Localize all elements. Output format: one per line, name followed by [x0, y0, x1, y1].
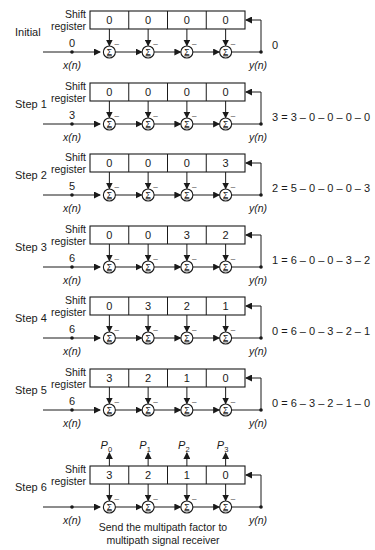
feedback-arrow: [246, 306, 261, 338]
minus-sign: –: [153, 325, 158, 334]
register-cell-value: 0: [184, 86, 190, 98]
minus-sign: –: [153, 494, 158, 503]
sigma-icon: Σ: [145, 502, 150, 512]
register-cell-value: 1: [223, 300, 229, 312]
register-cell-value: 0: [106, 86, 112, 98]
sigma-icon: Σ: [184, 262, 189, 272]
step-label: Step 1: [15, 98, 47, 110]
minus-sign: –: [114, 325, 119, 334]
register-label-register: register: [51, 92, 87, 104]
sigma-icon: Σ: [223, 502, 228, 512]
sigma-icon: Σ: [223, 262, 228, 272]
input-node-dot: [70, 265, 74, 269]
register-cell-value: 0: [145, 157, 151, 169]
input-signal-label: x(n): [62, 514, 81, 526]
feedback-arrow: [246, 378, 261, 410]
sigma-icon: Σ: [184, 119, 189, 129]
register-cell-value: 2: [223, 229, 229, 241]
step-block-6: Step 6Shiftregister3210x(n)Σ–Σ–Σ–Σ–y(n)P…: [15, 439, 267, 526]
register-cell-value: 3: [106, 372, 112, 384]
register-label-shift: Shift: [65, 463, 86, 475]
register-label-shift: Shift: [65, 80, 86, 92]
feedback-arrow: [246, 92, 261, 124]
input-node-dot: [70, 505, 74, 509]
output-p-label: P0: [101, 439, 113, 454]
minus-sign: –: [153, 39, 158, 48]
register-cell-value: 0: [223, 14, 229, 26]
register-cell-value: 0: [184, 157, 190, 169]
input-node-dot: [70, 50, 74, 54]
minus-sign: –: [231, 254, 236, 263]
sigma-icon: Σ: [107, 262, 112, 272]
step-block-5: Step 5Shiftregister32106x(n)Σ–Σ–Σ–Σ–y(n)…: [15, 366, 370, 429]
sigma-icon: Σ: [184, 333, 189, 343]
register-cell-value: 0: [223, 86, 229, 98]
register-cell-value: 0: [106, 14, 112, 26]
minus-sign: –: [192, 39, 197, 48]
minus-sign: –: [114, 39, 119, 48]
sigma-icon: Σ: [184, 502, 189, 512]
minus-sign: –: [153, 182, 158, 191]
minus-sign: –: [153, 111, 158, 120]
output-p-label: P1: [139, 439, 151, 454]
output-equation: 0 = 6 – 3 – 2 – 1 – 0: [272, 397, 370, 409]
step-block-1: Step 1Shiftregister00003x(n)Σ–Σ–Σ–Σ–y(n)…: [15, 80, 370, 143]
sigma-icon: Σ: [107, 190, 112, 200]
sigma-icon: Σ: [223, 119, 228, 129]
register-label-shift: Shift: [65, 8, 86, 20]
register-label-register: register: [51, 475, 87, 487]
register-cell-value: 1: [184, 372, 190, 384]
output-signal-label: y(n): [248, 59, 267, 71]
sigma-icon: Σ: [145, 333, 150, 343]
output-p-label: P2: [178, 439, 190, 454]
step-label: Step 5: [15, 384, 47, 396]
output-equation: 2 = 5 – 0 – 0 – 0 – 3: [272, 182, 370, 194]
register-cell-value: 0: [106, 300, 112, 312]
output-signal-label: y(n): [248, 131, 267, 143]
input-value: 6: [69, 395, 75, 407]
register-cell-value: 0: [145, 14, 151, 26]
step-block-4: Step 4Shiftregister03216x(n)Σ–Σ–Σ–Σ–y(n)…: [15, 294, 370, 357]
register-cell-value: 0: [145, 86, 151, 98]
input-node-dot: [70, 336, 74, 340]
feedback-arrow: [246, 475, 261, 507]
minus-sign: –: [231, 494, 236, 503]
register-cell-value: 3: [184, 229, 190, 241]
step-label: Step 4: [15, 312, 47, 324]
output-signal-label: y(n): [248, 514, 267, 526]
input-signal-label: x(n): [62, 131, 81, 143]
sigma-icon: Σ: [223, 47, 228, 57]
sigma-icon: Σ: [184, 47, 189, 57]
register-cell-value: 2: [145, 469, 151, 481]
sigma-icon: Σ: [223, 405, 228, 415]
output-signal-label: y(n): [248, 345, 267, 357]
minus-sign: –: [192, 325, 197, 334]
register-label-shift: Shift: [65, 366, 86, 378]
output-p-label: P3: [217, 439, 229, 454]
step-block-0: InitialShiftregister00000x(n)Σ–Σ–Σ–Σ–y(n…: [15, 8, 278, 71]
caption-line-1: Send the multipath factor to: [99, 521, 228, 533]
minus-sign: –: [114, 397, 119, 406]
register-cell-value: 0: [223, 372, 229, 384]
sigma-icon: Σ: [145, 262, 150, 272]
register-label-shift: Shift: [65, 294, 86, 306]
input-signal-label: x(n): [62, 345, 81, 357]
input-signal-label: x(n): [62, 417, 81, 429]
feedback-arrow: [246, 163, 261, 195]
input-signal-label: x(n): [62, 274, 81, 286]
register-cell-value: 0: [184, 14, 190, 26]
sigma-icon: Σ: [145, 47, 150, 57]
sigma-icon: Σ: [107, 502, 112, 512]
minus-sign: –: [231, 182, 236, 191]
register-cell-value: 3: [106, 469, 112, 481]
input-value: 5: [69, 180, 75, 192]
register-label-shift: Shift: [65, 151, 86, 163]
step-label: Step 6: [15, 481, 47, 493]
input-value: 3: [69, 109, 75, 121]
feedback-arrow: [246, 20, 261, 52]
minus-sign: –: [231, 111, 236, 120]
minus-sign: –: [114, 182, 119, 191]
output-equation: 3 = 3 – 0 – 0 – 0 – 0: [272, 111, 370, 123]
input-signal-label: x(n): [62, 202, 81, 214]
register-cell-value: 0: [145, 229, 151, 241]
